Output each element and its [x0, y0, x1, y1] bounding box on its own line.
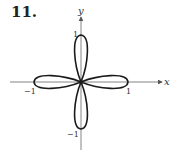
tick-y-neg: −1 [67, 130, 79, 139]
tick-x-neg: −1 [24, 87, 36, 96]
tick-y-pos: 1 [73, 30, 78, 39]
polar-plot: x y 1 −1 1 −1 [0, 0, 177, 155]
figure: 11. x y 1 −1 1 −1 [0, 0, 177, 155]
tick-x-pos: 1 [126, 87, 131, 96]
x-axis-label: x [164, 76, 170, 87]
y-axis-label: y [77, 5, 84, 16]
